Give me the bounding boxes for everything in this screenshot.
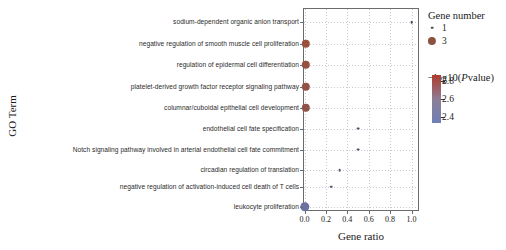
grid-line-vertical <box>390 9 391 210</box>
data-point <box>357 148 360 151</box>
colorbar-tick-label: 2.4 <box>442 112 454 122</box>
y-axis-tick-label: platelet-derived growth factor receptor … <box>0 83 299 91</box>
y-axis-tick-mark <box>300 108 303 109</box>
legend-colorbar: −log10(Pvalue) 2.82.62.4 <box>428 72 506 127</box>
legend-size-item: 1 <box>428 21 506 34</box>
y-axis-tick-mark <box>300 150 303 151</box>
colorbar-tick-label: 2.6 <box>442 94 454 104</box>
y-axis-tick-label: regulation of epidermal cell differentia… <box>0 61 299 69</box>
y-axis-tick-label: circadian regulation of translation <box>0 166 299 174</box>
colorbar-gradient <box>432 75 441 123</box>
y-axis-tick-mark <box>300 170 303 171</box>
legend-size-keys: 13 <box>428 21 506 47</box>
x-axis-tick-mark <box>390 211 391 214</box>
grid-line-vertical <box>369 9 370 210</box>
grid-line-horizontal <box>304 44 418 45</box>
data-point <box>339 169 342 172</box>
x-axis-tick-mark <box>369 211 370 214</box>
y-axis-tick-label: Notch signaling pathway involved in arte… <box>0 146 299 154</box>
x-axis-tick-mark <box>412 211 413 214</box>
grid-line-horizontal <box>304 22 418 23</box>
y-axis-tick-mark <box>300 65 303 66</box>
figure-root: GO Term sodium-dependent organic anion t… <box>0 0 506 250</box>
legend: Gene number 13 −log10(Pvalue) 2.82.62.4 <box>428 10 506 47</box>
plot-panel <box>303 8 419 211</box>
grid-line-vertical <box>347 9 348 210</box>
grid-line-horizontal <box>304 65 418 66</box>
data-point <box>357 127 360 130</box>
y-axis-tick-label: negative regulation of smooth muscle cel… <box>0 40 299 48</box>
x-axis-tick-mark <box>347 211 348 214</box>
x-axis-title: Gene ratio <box>303 230 419 242</box>
x-axis-tick-label: 1.0 <box>397 215 427 224</box>
y-axis-tick-label: leukocyte proliferation <box>0 203 299 211</box>
legend-size-label: 3 <box>442 36 447 46</box>
y-axis-tick-label: negative regulation of activation-induce… <box>0 183 299 191</box>
grid-line-horizontal <box>304 87 418 88</box>
legend-size-dot <box>431 26 434 29</box>
y-axis-tick-mark <box>300 44 303 45</box>
grid-line-horizontal <box>304 129 418 130</box>
data-point <box>330 185 333 188</box>
y-axis-tick-mark <box>300 87 303 88</box>
colorbar-tick-label: 2.8 <box>442 76 454 86</box>
y-axis-tick-mark <box>300 129 303 130</box>
grid-line-horizontal <box>304 187 418 188</box>
grid-line-horizontal <box>304 150 418 151</box>
legend-size-item: 3 <box>428 34 506 47</box>
legend-size-title: Gene number <box>428 10 506 21</box>
grid-line-horizontal <box>304 108 418 109</box>
grid-line-vertical <box>412 9 413 210</box>
data-point <box>410 21 413 24</box>
y-axis-tick-mark <box>300 187 303 188</box>
grid-line-horizontal <box>304 170 418 171</box>
grid-line-horizontal <box>304 207 418 208</box>
x-axis-tick-mark <box>326 211 327 214</box>
y-axis-tick-label: columnar/cuboidal epithelial cell develo… <box>0 104 299 112</box>
y-axis-tick-label: sodium-dependent organic anion transport <box>0 18 299 26</box>
y-axis-tick-mark <box>300 207 303 208</box>
grid-line-vertical <box>326 9 327 210</box>
legend-color-title-italic: P <box>461 72 467 83</box>
legend-size-label: 1 <box>442 23 447 33</box>
y-axis-tick-labels: sodium-dependent organic anion transport… <box>0 0 299 250</box>
x-axis-tick-mark <box>305 211 306 214</box>
legend-size-dot <box>428 36 436 44</box>
y-axis-tick-label: endothelial cell fate specification <box>0 125 299 133</box>
y-axis-tick-mark <box>300 22 303 23</box>
